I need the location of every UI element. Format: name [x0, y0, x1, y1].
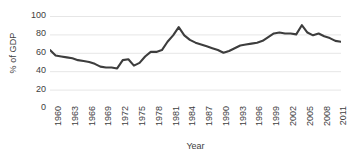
- x-axis-tick-label: 1978: [155, 106, 164, 140]
- x-axis-tick-label: 1963: [71, 106, 80, 140]
- x-axis-tick-label: 2008: [323, 106, 332, 140]
- x-axis-title: Year: [50, 141, 341, 151]
- x-axis-tick-label: 1981: [172, 106, 181, 140]
- x-axis-tick-label: 1984: [188, 106, 197, 140]
- y-axis-tick-label: 80: [36, 29, 46, 38]
- x-axis-tick-label: 1972: [121, 106, 130, 140]
- data-series-line: [50, 25, 341, 68]
- plot-area: [50, 16, 341, 108]
- x-axis-tick-label: 2005: [306, 106, 315, 140]
- y-axis-tick-label: 20: [36, 85, 46, 94]
- x-axis-tick-label: 1999: [272, 106, 281, 140]
- x-axis-tick-label: 1990: [222, 106, 231, 140]
- gridlines: [50, 17, 341, 109]
- x-axis-tick-label: 1960: [54, 106, 63, 140]
- plot-svg: [50, 16, 341, 108]
- y-axis-tick-label: 100: [31, 11, 46, 20]
- y-axis-tick-label: 0: [41, 103, 46, 112]
- x-axis-tick-label: 1996: [255, 106, 264, 140]
- x-axis-tick-label: 2002: [289, 106, 298, 140]
- x-axis-tick-label: 1975: [138, 106, 147, 140]
- x-axis-tick-label: 1966: [88, 106, 97, 140]
- x-axis-tick-label: 2011: [339, 106, 348, 140]
- line-chart: % of GDP 100806040200 196019631966196919…: [0, 0, 362, 157]
- x-axis-tick-label: 1987: [205, 106, 214, 140]
- x-axis-tick-labels: 1960196319661969197219751978198119841987…: [50, 108, 341, 142]
- x-axis-tick-label: 1969: [104, 106, 113, 140]
- y-axis-tick-label: 60: [36, 48, 46, 57]
- y-axis-tick-labels: 100806040200: [16, 0, 46, 157]
- x-axis-tick-label: 1993: [239, 106, 248, 140]
- y-axis-tick-label: 40: [36, 66, 46, 75]
